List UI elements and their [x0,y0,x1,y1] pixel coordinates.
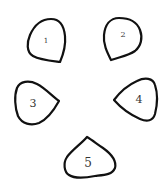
petal-4-label: 4 [136,93,143,106]
petal-4: 4 [114,79,157,121]
petal-3: 3 [15,82,59,125]
petal-3-label: 3 [30,97,37,110]
petal-diagram: 1 2 3 4 5 [0,0,165,193]
petal-1-label: 1 [44,37,48,45]
petal-2-label: 2 [120,30,125,39]
petal-5: 5 [65,137,116,178]
petal-2: 2 [104,18,142,60]
petal-3-outline [15,82,59,125]
petal-1: 1 [28,19,65,62]
petal-5-label: 5 [84,156,92,170]
petal-2-outline [104,18,142,60]
